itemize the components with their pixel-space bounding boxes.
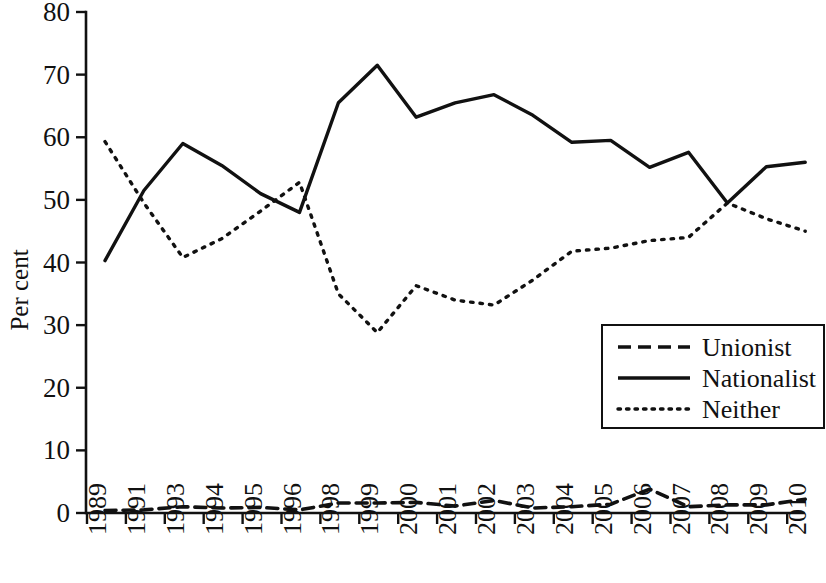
x-tick-label: 2009 <box>744 483 773 535</box>
y-axis-title: Per cent <box>6 249 33 330</box>
y-tick-label: 20 <box>43 373 70 403</box>
x-tick-label: 2000 <box>394 483 423 535</box>
y-tick-label: 0 <box>57 498 71 528</box>
x-tick-label: 2002 <box>472 483 501 535</box>
chart-container: 01020304050607080 1989199119931994199519… <box>0 0 826 583</box>
x-tick-label: 1998 <box>316 483 345 535</box>
y-axis-tick-labels: 01020304050607080 <box>43 0 70 528</box>
legend-label-unionist: Unionist <box>702 333 792 362</box>
x-axis-tick-labels: 1989199119931994199519961998199920002001… <box>83 483 812 535</box>
y-tick-label: 30 <box>43 310 70 340</box>
y-tick-label: 40 <box>43 248 70 278</box>
y-tick-label: 80 <box>43 0 70 27</box>
chart-axes <box>86 12 803 513</box>
line-chart: 01020304050607080 1989199119931994199519… <box>0 0 826 583</box>
x-tick-label: 2005 <box>589 483 618 535</box>
y-tick-label: 50 <box>43 185 70 215</box>
x-tick-label: 2008 <box>705 483 734 535</box>
y-axis-title-label: Per cent <box>6 249 33 330</box>
x-tick-label: 2007 <box>667 483 696 535</box>
axis-lines <box>86 12 803 513</box>
series-line-nationalist <box>105 65 805 260</box>
x-tick-label: 2001 <box>433 483 462 535</box>
y-tick-label: 70 <box>43 60 70 90</box>
x-tick-label: 1999 <box>355 483 384 535</box>
legend-label-neither: Neither <box>702 395 780 424</box>
chart-series <box>105 65 805 510</box>
chart-ticks <box>76 12 787 524</box>
y-tick-label: 60 <box>43 122 70 152</box>
chart-legend: UnionistNationalistNeither <box>602 325 824 428</box>
y-tick-label: 10 <box>43 435 70 465</box>
x-tick-label: 2010 <box>783 483 812 535</box>
legend-label-nationalist: Nationalist <box>702 364 817 393</box>
